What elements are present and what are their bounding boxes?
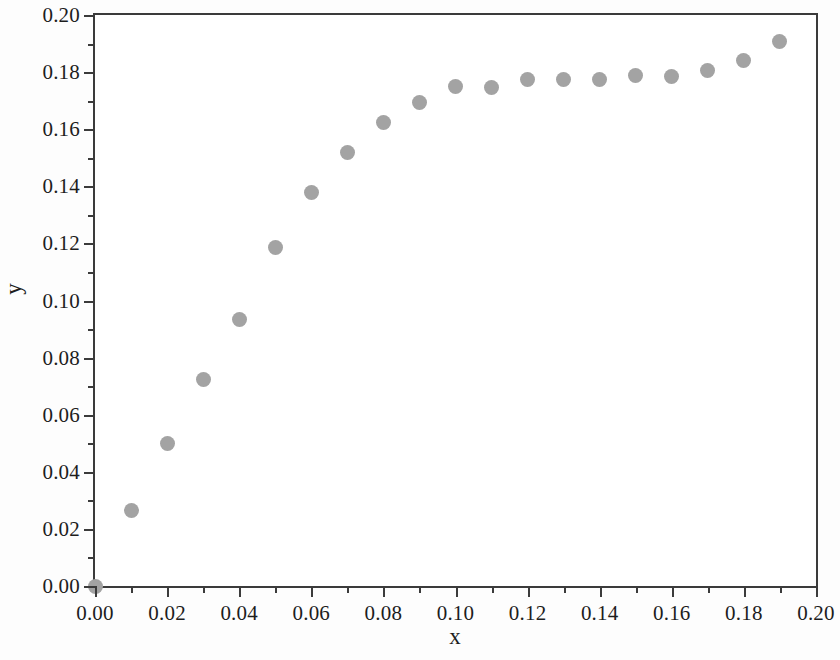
x-axis-minor-tick [419,586,421,593]
data-point [160,436,175,451]
y-axis-minor-tick [88,500,95,502]
data-point [196,372,211,387]
y-axis-tick-label: 0.02 [42,516,80,541]
x-axis-minor-tick [492,586,494,593]
x-axis-tick-label: 0.20 [797,601,835,626]
data-point [628,68,643,83]
y-axis-tick-label: 0.20 [42,3,80,28]
y-axis-major-tick [84,415,95,417]
x-axis-tick-label: 0.16 [653,601,691,626]
x-axis-minor-tick [636,586,638,593]
figure-canvas: 0.000.020.040.060.080.100.120.140.160.18… [0,0,840,660]
x-axis-minor-tick [708,586,710,593]
x-axis-tick-label: 0.10 [437,601,475,626]
y-axis-major-tick [84,186,95,188]
x-axis-major-tick [311,586,313,597]
x-axis-tick-label: 0.02 [148,601,186,626]
x-axis-major-tick [528,586,530,597]
data-point [376,115,391,130]
y-axis-tick-label: 0.00 [42,574,80,599]
data-point [772,34,787,49]
y-axis-major-tick [84,472,95,474]
y-axis-tick-label: 0.10 [42,288,80,313]
y-axis-major-tick [84,301,95,303]
x-axis-tick-label: 0.08 [365,601,403,626]
y-axis-major-tick [84,243,95,245]
x-axis-tick-label: 0.18 [725,601,763,626]
x-axis-major-tick [816,586,818,597]
y-axis-minor-tick [88,386,95,388]
data-point [232,312,247,327]
x-axis-tick-label: 0.00 [76,601,114,626]
data-point [124,503,139,518]
data-point [592,72,607,87]
x-axis-title: x [449,624,461,650]
y-axis-minor-tick [88,101,95,103]
x-axis-major-tick [672,586,674,597]
y-axis-major-tick [84,129,95,131]
x-axis-tick-label: 0.14 [581,601,619,626]
y-axis-tick-label: 0.04 [42,459,80,484]
x-axis-major-tick [167,586,169,597]
y-axis-tick-label: 0.06 [42,402,80,427]
data-point [736,53,751,68]
y-axis-major-tick [84,72,95,74]
x-axis-tick-label: 0.04 [220,601,258,626]
data-point [412,95,427,110]
y-axis-minor-tick [88,557,95,559]
data-point [268,240,283,255]
plot-area [95,15,816,586]
x-axis-major-tick [600,586,602,597]
data-point [700,63,715,78]
y-axis-minor-tick [88,329,95,331]
x-axis-major-tick [744,586,746,597]
scan-artifact-text [0,650,840,660]
plot-frame: 0.000.020.040.060.080.100.120.140.160.18… [93,13,818,588]
x-axis-minor-tick [780,586,782,593]
y-axis-major-tick [84,529,95,531]
x-axis-minor-tick [131,586,133,593]
x-axis-minor-tick [347,586,349,593]
x-axis-major-tick [456,586,458,597]
y-axis-minor-tick [88,215,95,217]
data-point [520,72,535,87]
x-axis-tick-label: 0.12 [509,601,547,626]
y-axis-major-tick [84,358,95,360]
y-axis-minor-tick [88,272,95,274]
y-axis-title: y [1,283,27,295]
y-axis-tick-label: 0.12 [42,231,80,256]
data-point [304,185,319,200]
y-axis-major-tick [84,15,95,17]
data-point [664,69,679,84]
data-point [340,145,355,160]
x-axis-tick-label: 0.06 [293,601,331,626]
y-axis-tick-label: 0.18 [42,60,80,85]
x-axis-major-tick [383,586,385,597]
x-axis-major-tick [95,586,97,597]
x-axis-minor-tick [275,586,277,593]
y-axis-minor-tick [88,443,95,445]
y-axis-tick-label: 0.14 [42,174,80,199]
x-axis-minor-tick [203,586,205,593]
y-axis-tick-label: 0.16 [42,117,80,142]
x-axis-major-tick [239,586,241,597]
y-axis-major-tick [84,586,95,588]
y-axis-minor-tick [88,158,95,160]
x-axis-minor-tick [564,586,566,593]
data-point [556,72,571,87]
data-point [448,79,463,94]
y-axis-tick-label: 0.08 [42,345,80,370]
y-axis-minor-tick [88,44,95,46]
data-point [484,80,499,95]
